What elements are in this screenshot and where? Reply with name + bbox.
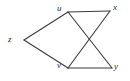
vertex-label-u: u xyxy=(57,4,62,13)
graph-figure: z u v x y xyxy=(0,0,130,81)
vertex-label-y: y xyxy=(114,62,118,71)
edge-layer xyxy=(24,11,112,68)
edge-z-v xyxy=(24,40,68,68)
edge-z-u xyxy=(24,12,68,40)
graph-canvas xyxy=(0,0,130,81)
vertex-label-x: x xyxy=(113,3,117,12)
edge-u-x xyxy=(68,11,110,12)
vertex-label-z: z xyxy=(8,35,12,44)
vertex-label-v: v xyxy=(57,61,61,70)
